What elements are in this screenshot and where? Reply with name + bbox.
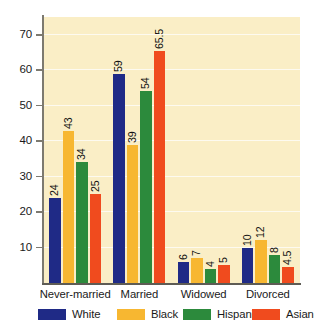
bar [178, 262, 190, 283]
y-axis-line [42, 15, 44, 285]
bar-value-label: 10 [241, 234, 253, 245]
bar-value-label: 4 [204, 261, 216, 267]
bar [242, 248, 254, 283]
y-axis-tick [36, 140, 42, 142]
bar-value-label: 25 [89, 181, 101, 192]
bar-chart: 2443342559395465.56745101284.5 102030405… [0, 0, 315, 336]
bar [218, 265, 230, 283]
bar-value-label: 34 [75, 149, 87, 160]
y-axis-tick-label: 40 [0, 134, 32, 146]
legend-item: Hispanic [183, 306, 260, 322]
legend-label: White [72, 308, 100, 320]
bar-value-label: 59 [112, 60, 124, 71]
bar-value-label: 12 [254, 227, 266, 238]
legend-swatch [38, 309, 66, 320]
bar [63, 131, 75, 284]
y-axis-tick [36, 34, 42, 36]
bar [76, 162, 88, 283]
bar [113, 74, 125, 283]
bar-value-label: 39 [126, 131, 138, 142]
y-axis-tick-label: 70 [0, 28, 32, 40]
legend-label: Asian [286, 308, 314, 320]
bar-value-label: 43 [62, 117, 74, 128]
y-axis-tick [36, 247, 42, 249]
y-axis-tick [36, 69, 42, 71]
bar [127, 145, 139, 283]
gridline [43, 34, 300, 35]
legend: WhiteBlackHispanicAsian [0, 306, 315, 326]
y-axis-tick [36, 105, 42, 107]
y-axis-tick-label: 60 [0, 63, 32, 75]
gridline [43, 140, 300, 141]
gridline [43, 105, 300, 106]
y-axis-tick-label: 10 [0, 241, 32, 253]
legend-swatch [183, 309, 211, 320]
legend-item: Black [117, 306, 178, 322]
bar [255, 240, 267, 283]
y-axis-tick [36, 211, 42, 213]
bar-value-label: 8 [268, 247, 280, 253]
y-axis-tick [36, 176, 42, 178]
legend-swatch [252, 309, 280, 320]
legend-label: Black [151, 308, 178, 320]
y-axis-tick-label: 30 [0, 170, 32, 182]
bar [140, 91, 152, 283]
bar-value-label: 65.5 [153, 29, 165, 49]
bar-value-label: 24 [48, 185, 60, 196]
bar-value-label: 7 [190, 250, 202, 256]
gridline [43, 69, 300, 70]
bar [282, 267, 294, 283]
y-axis-tick-label: 20 [0, 205, 32, 217]
bar [269, 255, 281, 283]
x-axis-category-label: Divorced [208, 288, 315, 300]
bar-value-label: 4.5 [281, 251, 293, 265]
bar [90, 194, 102, 283]
bar [205, 269, 217, 283]
bar [191, 258, 203, 283]
legend-item: Asian [252, 306, 314, 322]
bar-value-label: 6 [177, 254, 189, 260]
x-axis-line [42, 283, 301, 285]
bar [154, 51, 166, 283]
bar-value-label: 54 [139, 78, 151, 89]
y-axis-tick-label: 50 [0, 99, 32, 111]
legend-item: White [38, 306, 100, 322]
bar-value-label: 5 [217, 258, 229, 264]
legend-swatch [117, 309, 145, 320]
plot-area: 2443342559395465.56745101284.5 [43, 17, 300, 283]
bar [49, 198, 61, 283]
